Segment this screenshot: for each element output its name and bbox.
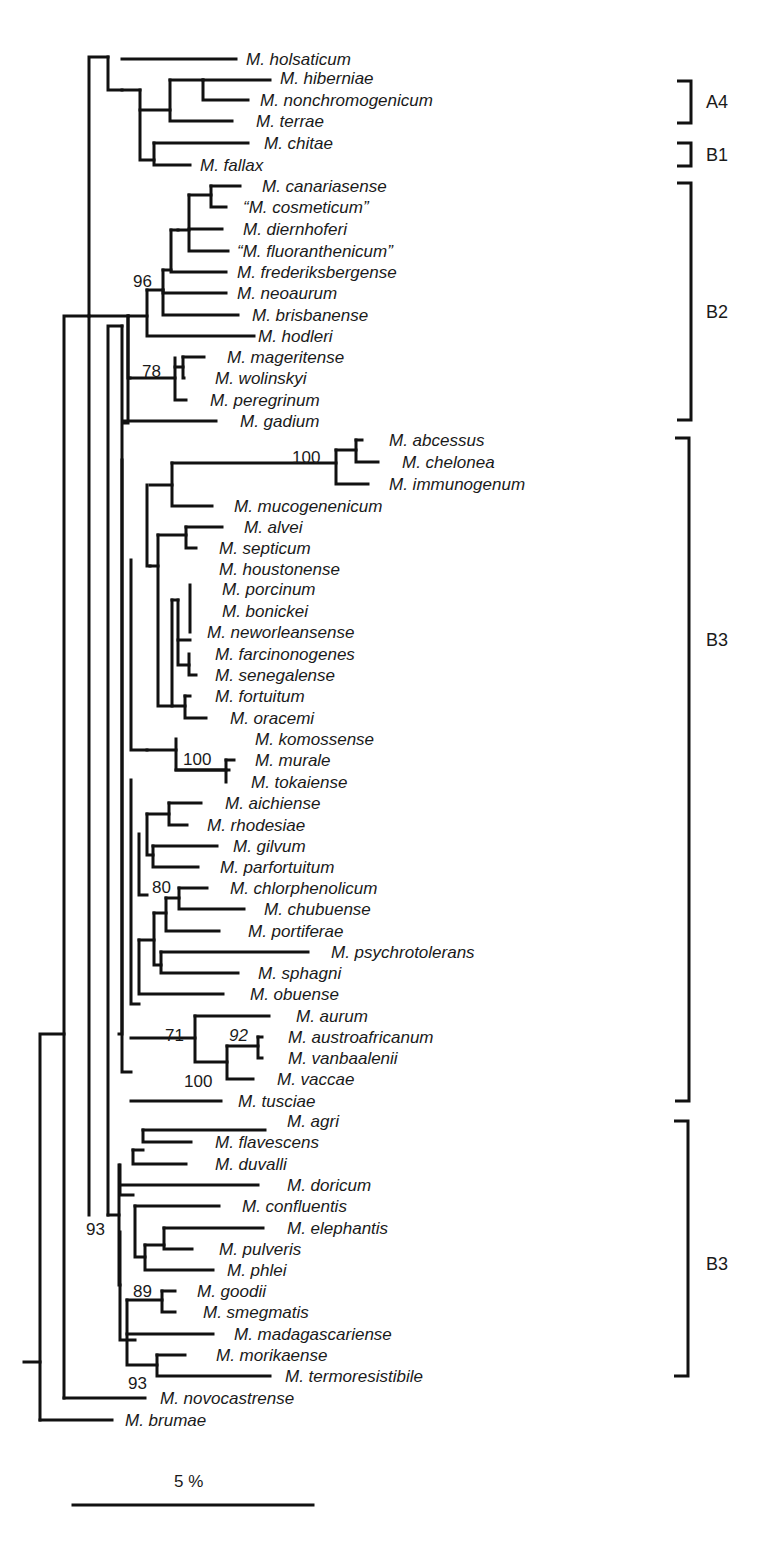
taxon-label: M. rhodesiae (207, 816, 305, 835)
scale-bar-label: 5 % (174, 1472, 203, 1491)
taxon-label: M. tusciae (238, 1092, 315, 1111)
branch-segment (133, 1150, 186, 1164)
taxon-label: M. brisbanense (252, 306, 368, 325)
taxon-label: M. hiberniae (280, 69, 374, 88)
taxon-label: M. austroafricanum (288, 1028, 434, 1047)
taxon-label: M. farcinonogenes (215, 645, 355, 664)
bootstrap-value: 96 (133, 272, 152, 291)
taxon-label: M. obuense (250, 985, 339, 1004)
taxon-label: M. pulveris (219, 1240, 302, 1259)
bootstrap-value: 93 (128, 1374, 147, 1393)
branch-segment (164, 1228, 192, 1249)
taxon-label: M. elephantis (287, 1219, 389, 1238)
branch-segment (189, 195, 228, 251)
group-label: B3 (706, 1254, 728, 1274)
branch-segment (120, 1165, 133, 1195)
taxon-label: M. mucogenenicum (234, 497, 382, 516)
branch-segment (258, 1037, 262, 1058)
taxon-label: M. porcinum (222, 580, 316, 599)
branch-segment (143, 1130, 191, 1142)
bootstrap-value: 80 (152, 878, 171, 897)
branch-segment (172, 463, 212, 506)
taxon-label: M. parfortuitum (220, 858, 334, 877)
branch-segment (131, 560, 147, 750)
taxon-label: “M. fluoranthenicum” (237, 242, 394, 261)
branch-segment (227, 1046, 253, 1079)
scale-bar: 5 % (73, 1472, 313, 1505)
group-label: B3 (706, 630, 728, 650)
taxon-label: M. oracemi (230, 709, 315, 728)
taxon-label: M. chelonea (402, 453, 495, 472)
branch-segment (178, 600, 189, 665)
group-brackets: A4B1B2B3B3 (674, 81, 728, 1376)
branch-segment (189, 654, 196, 675)
taxon-label: M. canariasense (262, 177, 387, 196)
taxon-label: M. diernhoferi (243, 220, 348, 239)
taxon-label: M. alvei (244, 518, 304, 537)
taxon-label: M. goodii (197, 1282, 267, 1301)
taxon-label: M. peregrinum (210, 391, 320, 410)
branch-segment (154, 143, 190, 165)
taxon-label: M. vanbaalenii (288, 1049, 399, 1068)
taxon-label: M. sphagni (258, 964, 342, 983)
taxon-label: M. bonickei (222, 602, 309, 621)
bootstrap-value: 92 (229, 1026, 248, 1045)
taxon-label: M. gadium (240, 412, 319, 431)
taxon-label: M. aichiense (225, 794, 320, 813)
taxon-label: M. agri (287, 1112, 340, 1131)
branch-segment (108, 326, 122, 1215)
taxon-label: M. confluentis (242, 1197, 347, 1216)
group-bracket (677, 183, 691, 420)
branch-segment (356, 440, 378, 462)
branch-segment (128, 316, 130, 378)
branch-segment (147, 485, 150, 566)
taxon-label: M. neworleansense (207, 623, 354, 642)
taxon-label: M. nonchromogenicum (260, 91, 433, 110)
taxon-label: M. chlorphenolicum (230, 879, 377, 898)
taxon-label: M. doricum (287, 1176, 371, 1195)
taxon-label: M. gilvum (233, 837, 306, 856)
branch-segment (169, 803, 187, 825)
taxon-label: M. duvalli (215, 1155, 288, 1174)
group-bracket (677, 81, 691, 123)
taxon-label: M. immunogenum (389, 475, 525, 494)
taxon-label: M. madagascariense (234, 1325, 392, 1344)
branch-segment (139, 940, 223, 994)
taxon-label: M. tokaiense (251, 773, 347, 792)
taxon-label: M. terrae (256, 112, 324, 131)
taxon-label: M. abcessus (389, 431, 485, 450)
branch-segment (185, 696, 206, 718)
branch-segment (203, 80, 248, 100)
bootstrap-value: 100 (183, 750, 211, 769)
taxon-labels: M. holsaticumM. hiberniaeM. nonchromogen… (125, 50, 525, 1430)
taxon-label: M. morikaense (216, 1346, 327, 1365)
taxon-label: M. komossense (255, 730, 374, 749)
taxon-label: M. novocastrense (160, 1389, 294, 1408)
taxon-label: M. psychrotolerans (331, 943, 475, 962)
taxon-label: M. fallax (200, 156, 264, 175)
branch-segment (161, 952, 238, 973)
taxon-label: M. vaccae (277, 1070, 354, 1089)
branch-segment (89, 57, 108, 1215)
group-label: B1 (706, 145, 728, 165)
branch-segment (183, 357, 184, 378)
taxon-label: “M. cosmeticum” (243, 198, 370, 217)
taxon-label: M. aurum (296, 1007, 368, 1026)
taxon-label: M. neoaurum (237, 284, 337, 303)
taxon-label: M. fortuitum (215, 687, 305, 706)
bootstrap-value: 71 (165, 1026, 184, 1045)
group-bracket (674, 1121, 688, 1376)
taxon-label: M. holsaticum (246, 50, 351, 69)
branch-segment (211, 186, 226, 207)
branch-segment (153, 846, 198, 867)
branch-segment (162, 1291, 175, 1312)
branch-segment (166, 898, 219, 931)
branch-segment (336, 450, 368, 484)
taxon-label: M. houstonense (219, 560, 340, 579)
taxon-label: M. termoresistibile (285, 1367, 423, 1386)
taxon-label: M. mageritense (227, 348, 344, 367)
taxon-label: M. flavescens (215, 1133, 319, 1152)
bootstrap-value: 93 (86, 1220, 105, 1239)
taxon-label: M. portiferae (248, 922, 343, 941)
bootstrap-value: 89 (133, 1282, 152, 1301)
